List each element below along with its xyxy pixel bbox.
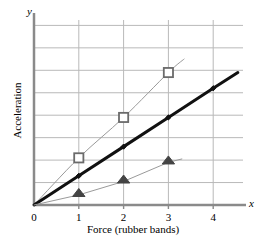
axis-lines [34,13,246,209]
y-axis-letter: y [27,6,32,17]
x-tick-label: 4 [203,212,223,223]
data-point-square [164,68,173,77]
series-lines [34,59,238,205]
gridlines-horizontal [34,25,243,182]
data-point-triangle [117,175,129,183]
x-axis-title: Force (rubber bands) [0,224,266,235]
plot-area [0,0,266,242]
x-axis-letter: x [249,198,254,209]
x-tick-label: 0 [24,212,44,223]
data-point-triangle [73,188,85,196]
y-axis-title: Acceleration [12,56,23,166]
series-line-triangles [34,159,182,205]
x-tick-label: 3 [158,212,178,223]
chart-container: y x 01234 Force (rubber bands) Accelerat… [0,0,266,242]
series-line-squares [34,59,184,205]
x-tick-label: 1 [69,212,89,223]
data-point-square [74,153,83,162]
x-tick-label: 2 [114,212,134,223]
data-point-square [119,113,128,122]
